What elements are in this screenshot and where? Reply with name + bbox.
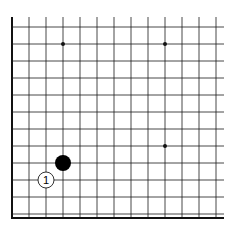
star-point-icon xyxy=(61,42,65,46)
black-stone[interactable] xyxy=(55,155,71,171)
go-board[interactable]: 1 xyxy=(0,0,235,231)
star-point-icon xyxy=(163,42,167,46)
stones-layer: 1 xyxy=(38,155,71,188)
board-grid xyxy=(11,17,224,218)
white-stone[interactable]: 1 xyxy=(38,172,54,188)
star-point-icon xyxy=(163,144,167,148)
move-number-label: 1 xyxy=(43,174,49,186)
